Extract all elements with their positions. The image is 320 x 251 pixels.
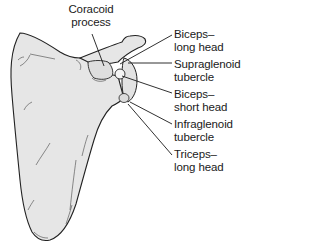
label-line: tubercle bbox=[174, 131, 233, 144]
label-infraglenoid-tubercle: Infraglenoid tubercle bbox=[174, 118, 233, 144]
label-line: process bbox=[62, 16, 120, 29]
infraglenoid-tubercle-shape bbox=[119, 94, 129, 103]
label-biceps-long-head: Biceps– long head bbox=[174, 28, 224, 54]
label-line: long head bbox=[174, 41, 224, 54]
label-biceps-short-head: Biceps– short head bbox=[174, 88, 227, 114]
supraglenoid-tubercle-shape bbox=[115, 69, 125, 79]
label-line: Biceps– bbox=[174, 88, 227, 101]
label-line: Supraglenoid bbox=[174, 58, 241, 71]
label-coracoid-process: Coracoid process bbox=[62, 3, 120, 29]
label-triceps-long-head: Triceps– long head bbox=[174, 148, 224, 174]
label-line: Triceps– bbox=[174, 148, 224, 161]
label-line: Infraglenoid bbox=[174, 118, 233, 131]
label-line: long head bbox=[174, 161, 224, 174]
label-line: Biceps– bbox=[174, 28, 224, 41]
label-line: short head bbox=[174, 101, 227, 114]
acromion bbox=[80, 36, 146, 64]
label-supraglenoid-tubercle: Supraglenoid tubercle bbox=[174, 58, 241, 84]
leader-triceps-long bbox=[128, 104, 172, 155]
label-line: Coracoid bbox=[62, 3, 120, 16]
label-line: tubercle bbox=[174, 71, 241, 84]
